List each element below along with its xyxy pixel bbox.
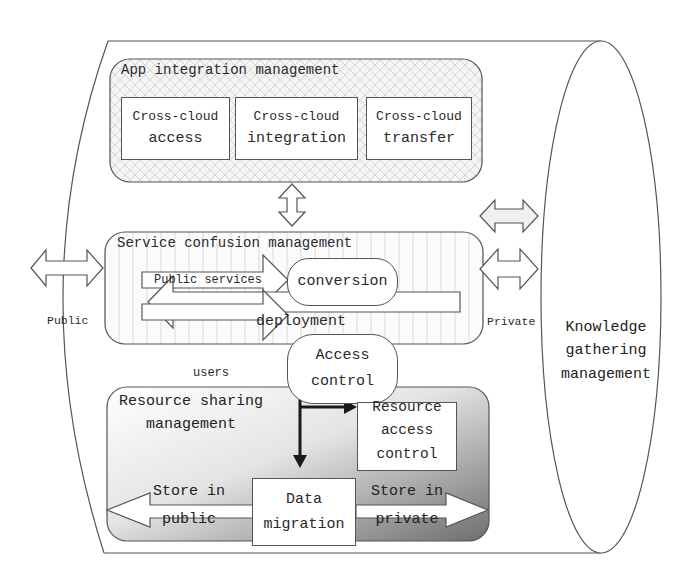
public-double-arrow-icon bbox=[31, 250, 103, 286]
rac-line1: Resource bbox=[372, 399, 442, 416]
private-arrow-label: Private bbox=[487, 316, 535, 328]
module-line1: Cross-cloud bbox=[376, 109, 462, 125]
knowledge-link-arrow-icon bbox=[480, 200, 538, 232]
access-control-line2: control bbox=[311, 373, 374, 391]
knowledge-line2: gathering bbox=[551, 339, 661, 362]
vertical-double-arrow-icon bbox=[279, 184, 305, 226]
access-control-node: Access control bbox=[287, 334, 398, 404]
data-migration-node: Data migration bbox=[252, 478, 356, 546]
users-label: users bbox=[193, 367, 229, 379]
access-control-line1: Access bbox=[315, 347, 369, 365]
module-cross-cloud-access: Cross-cloud access bbox=[121, 97, 230, 160]
store-private-label: Store in private bbox=[371, 484, 443, 527]
knowledge-line3: management bbox=[551, 363, 661, 386]
data-migration-line2: migration bbox=[263, 516, 344, 534]
private-double-arrow-icon bbox=[480, 249, 538, 289]
store-private-line2: private bbox=[371, 512, 443, 527]
resource-title-line2: management bbox=[119, 413, 263, 436]
service-confusion-title: Service confusion management bbox=[117, 236, 352, 250]
resource-sharing-title: Resource sharing management bbox=[119, 390, 263, 437]
resource-access-control-node: Resource access control bbox=[357, 402, 457, 471]
module-line2: integration bbox=[247, 130, 346, 148]
conversion-node: conversion bbox=[287, 258, 398, 306]
module-line2: access bbox=[148, 130, 202, 148]
public-arrow-label: Public bbox=[47, 315, 88, 327]
module-line1: Cross-cloud bbox=[133, 109, 219, 125]
data-migration-line1: Data bbox=[286, 491, 322, 509]
store-public-line2: public bbox=[153, 512, 225, 527]
store-public-line1: Store in bbox=[153, 484, 225, 499]
store-public-label: Store in public bbox=[153, 484, 225, 527]
knowledge-line1: Knowledge bbox=[551, 316, 661, 339]
rac-line3: control bbox=[377, 446, 438, 463]
deployment-label: deployment bbox=[256, 314, 346, 329]
rac-line2: access bbox=[381, 422, 433, 439]
knowledge-gathering-label: Knowledge gathering management bbox=[551, 316, 661, 386]
public-services-label: Public services bbox=[154, 274, 262, 286]
resource-title-line1: Resource sharing bbox=[119, 390, 263, 413]
module-cross-cloud-integration: Cross-cloud integration bbox=[235, 97, 358, 160]
module-line1: Cross-cloud bbox=[254, 109, 340, 125]
module-cross-cloud-transfer: Cross-cloud transfer bbox=[366, 97, 472, 160]
module-line2: transfer bbox=[383, 130, 455, 148]
store-private-line1: Store in bbox=[371, 484, 443, 499]
app-integration-title: App integration management bbox=[121, 63, 339, 77]
conversion-label: conversion bbox=[297, 273, 387, 291]
